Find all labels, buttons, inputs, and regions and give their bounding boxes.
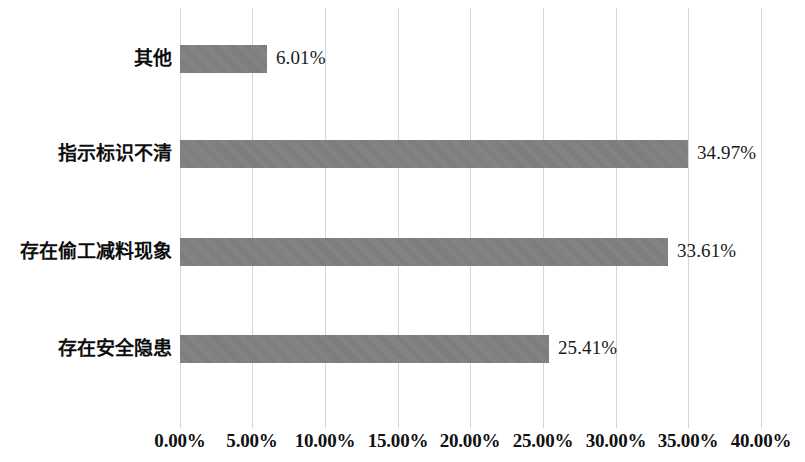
category-label-cutting-corners: 存在偷工减料现象 — [20, 238, 172, 266]
bar-value-other: 6.01% — [276, 47, 326, 69]
bar-row-cutting-corners: 33.61% — [180, 238, 762, 266]
x-tick-15: 15.00% — [368, 430, 429, 452]
bar-row-other: 6.01% — [180, 45, 762, 73]
x-tick-10: 10.00% — [295, 430, 356, 452]
bar-row-safety-hazard: 25.41% — [180, 335, 762, 363]
category-axis: 其他 指示标识不清 存在偷工减料现象 存在安全隐患 — [0, 8, 176, 428]
bar-unclear-signage — [180, 140, 688, 168]
x-tick-20: 20.00% — [440, 430, 501, 452]
x-tick-0: 0.00% — [154, 430, 205, 452]
x-tick-25: 25.00% — [513, 430, 574, 452]
bar-other — [180, 45, 267, 73]
bar-value-unclear-signage: 34.97% — [697, 142, 756, 164]
bar-row-unclear-signage: 34.97% — [180, 140, 762, 168]
category-label-unclear-signage: 指示标识不清 — [58, 140, 172, 168]
category-label-safety-hazard: 存在安全隐患 — [58, 335, 172, 363]
plot-area: 6.01% 34.97% 33.61% 25.41% — [180, 8, 762, 428]
x-tick-30: 30.00% — [586, 430, 647, 452]
x-tick-5: 5.00% — [226, 430, 277, 452]
category-label-other: 其他 — [134, 45, 172, 73]
x-tick-35: 35.00% — [658, 430, 719, 452]
bar-value-safety-hazard: 25.41% — [558, 337, 617, 359]
x-tick-40: 40.00% — [731, 430, 792, 452]
bar-cutting-corners — [180, 238, 668, 266]
bar-chart: 其他 指示标识不清 存在偷工减料现象 存在安全隐患 6.01% 34.97% 3… — [0, 0, 805, 462]
x-axis-labels: 0.00% 5.00% 10.00% 15.00% 20.00% 25.00% … — [0, 430, 805, 460]
bar-safety-hazard — [180, 335, 549, 363]
bar-value-cutting-corners: 33.61% — [677, 240, 736, 262]
